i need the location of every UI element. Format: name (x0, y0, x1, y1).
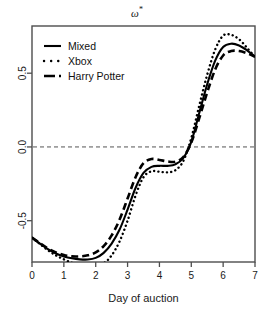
plot-frame (32, 26, 255, 262)
series-line-harry-potter (32, 51, 255, 257)
x-tick-label: 0 (29, 270, 35, 281)
chart-plot: 012345670.50.0-0.5Day of auctionMixedXbo… (0, 0, 274, 313)
legend-label-xbox: Xbox (68, 55, 93, 67)
x-tick-label: 1 (61, 270, 67, 281)
figure-container: ω* 012345670.50.0-0.5Day of auctionMixed… (0, 0, 274, 313)
x-tick-label: 4 (157, 270, 163, 281)
x-tick-label: 7 (252, 270, 258, 281)
x-tick-label: 5 (189, 270, 195, 281)
x-tick-label: 3 (125, 270, 131, 281)
legend-label-mixed: Mixed (68, 40, 96, 52)
series-group: MixedXboxHarry Potter (32, 34, 255, 267)
series-line-xbox (32, 34, 255, 267)
legend-label-harry-potter: Harry Potter (68, 70, 125, 82)
x-axis-title: Day of auction (108, 292, 178, 304)
y-tick-label: -0.5 (18, 212, 29, 230)
series-line-mixed (32, 44, 255, 260)
x-tick-label: 6 (220, 270, 226, 281)
y-tick-label: 0.0 (18, 140, 29, 154)
x-tick-label: 2 (93, 270, 99, 281)
y-tick-label: 0.5 (18, 66, 29, 80)
